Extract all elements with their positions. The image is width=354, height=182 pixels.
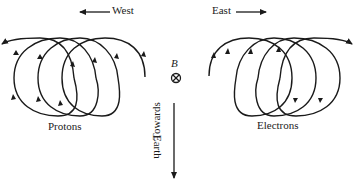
proton-direction-arrows <box>11 50 146 106</box>
proton-trajectory <box>2 38 145 116</box>
electron-trajectory <box>209 38 352 116</box>
b-field-into-page-icon <box>172 74 181 83</box>
electrons-label: Electrons <box>257 119 299 131</box>
west-label: West <box>112 4 134 16</box>
earth-label: Earth <box>152 135 164 159</box>
electron-direction-arrows <box>211 46 323 103</box>
gyration-diagram <box>0 0 354 182</box>
b-field-label: B <box>171 57 178 69</box>
protons-label: Protons <box>48 120 82 132</box>
east-label: East <box>212 4 231 16</box>
